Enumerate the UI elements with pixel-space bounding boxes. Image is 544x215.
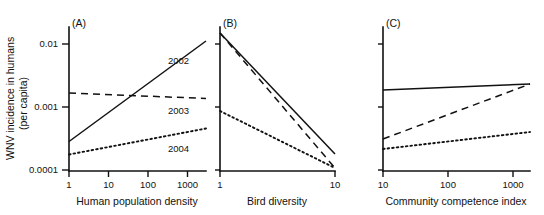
panel-a-x-tick-label-1000: 1000 (177, 179, 198, 190)
panel-a: (A) 0.01 0.001 0.0001 1 10 100 1000 Huma… (29, 17, 206, 207)
panel-b-x-tick-label-10: 10 (330, 179, 341, 190)
y-axis-title-line1: WNV incidence in humans (4, 37, 16, 160)
panel-b-series-2003 (220, 33, 335, 168)
series-label-2003: 2003 (168, 105, 189, 116)
y-tick-label-0.0001: 0.0001 (29, 164, 58, 175)
y-tick-label-0.01: 0.01 (40, 38, 59, 49)
panel-c-x-tick-label-100: 100 (440, 179, 456, 190)
panel-b-series-2002 (220, 33, 335, 154)
panel-b: (B) 1 10 Bird diversity (215, 17, 340, 207)
panel-a-label: (A) (72, 17, 86, 29)
panel-a-x-tick-label-10: 10 (103, 179, 114, 190)
panel-a-series-2003 (69, 93, 206, 99)
series-label-2002: 2002 (168, 55, 189, 66)
series-label-2004: 2004 (168, 143, 189, 154)
panel-a-x-axis-title: Human population density (76, 195, 198, 207)
panel-c-series-2002 (383, 84, 530, 90)
panel-b-label: (B) (223, 17, 237, 29)
panel-c-series-2003 (383, 84, 530, 139)
panel-c-x-tick-label-1000: 1000 (502, 179, 523, 190)
panel-b-series-2004 (220, 111, 335, 168)
panel-b-x-tick-label-1: 1 (217, 179, 222, 190)
panel-c: (C) 10 100 1000 Community competence ind… (378, 17, 530, 207)
panel-c-x-tick-label-10: 10 (378, 179, 389, 190)
panel-b-x-axis-title: Bird diversity (247, 195, 308, 207)
panel-c-series-2004 (383, 132, 530, 149)
y-tick-label-0.001: 0.001 (34, 101, 58, 112)
figure-wnv-incidence: WNV incidence in humans (per capita) (A)… (0, 0, 544, 215)
y-axis-title-line2: (per capita) (17, 77, 29, 130)
y-axis-title: WNV incidence in humans (per capita) (4, 37, 29, 160)
panel-c-label: (C) (386, 17, 401, 29)
figure-svg: WNV incidence in humans (per capita) (A)… (0, 0, 544, 215)
panel-c-x-axis-title: Community competence index (385, 195, 527, 207)
panel-a-x-tick-label-1: 1 (66, 179, 71, 190)
panel-a-x-tick-label-100: 100 (140, 179, 156, 190)
